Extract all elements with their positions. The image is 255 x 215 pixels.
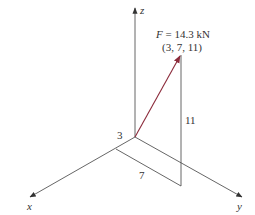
dimension-x-label: 3 bbox=[117, 129, 123, 141]
x-axis-label: x bbox=[27, 200, 32, 212]
force-label: F = 14.3 kN bbox=[156, 28, 210, 40]
dimension-y-label: 7 bbox=[139, 169, 145, 181]
force-arrow bbox=[135, 56, 180, 137]
force-magnitude-text: = 14.3 kN bbox=[163, 28, 210, 40]
force-symbol: F bbox=[156, 28, 163, 40]
force-point-label: (3, 7, 11) bbox=[162, 41, 202, 53]
construction-line-y-direction bbox=[116, 149, 181, 186]
y-axis-label: y bbox=[237, 200, 242, 212]
x-axis bbox=[30, 137, 135, 197]
z-axis-label: z bbox=[140, 4, 144, 16]
force-vector-diagram bbox=[0, 0, 255, 215]
dimension-z-label: 11 bbox=[185, 114, 196, 126]
y-axis bbox=[135, 137, 242, 197]
